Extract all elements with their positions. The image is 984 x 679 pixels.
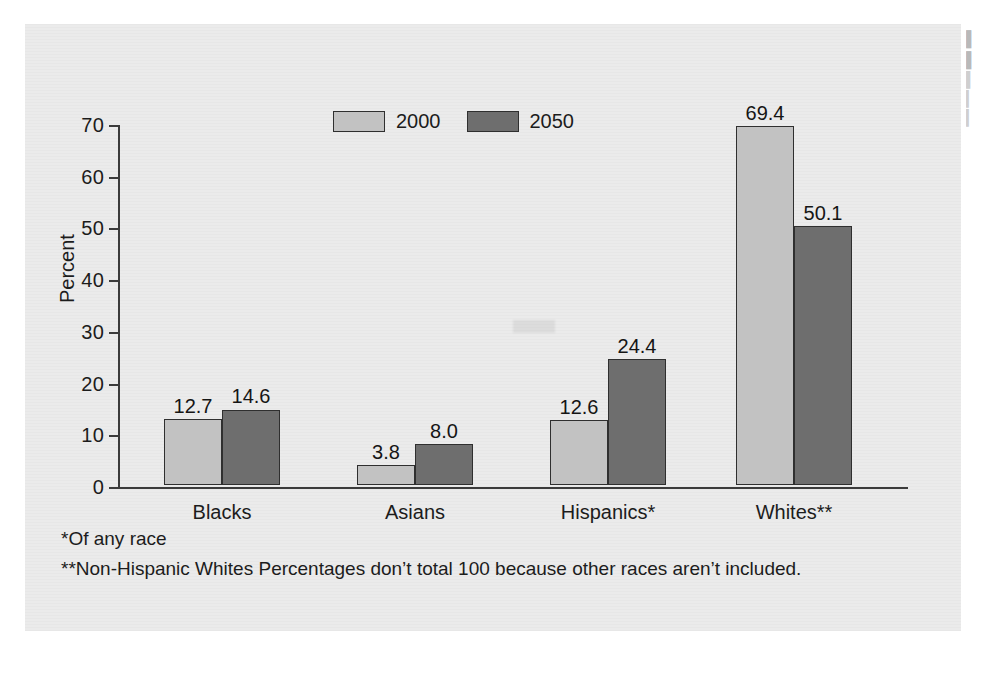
bar-value-label: 3.8 xyxy=(372,441,400,464)
footnotes: *Of any race **Non-Hispanic Whites Perce… xyxy=(61,524,921,584)
y-tick-label: 10 xyxy=(81,424,104,447)
bar-value-label: 8.0 xyxy=(430,420,458,443)
bar-value-label: 69.4 xyxy=(746,102,785,125)
bar-hispanics-2050 xyxy=(608,359,666,485)
margin-text-line: ▎ xyxy=(966,108,984,127)
footnote-2: **Non-Hispanic Whites Percentages don’t … xyxy=(61,554,921,584)
margin-text-line: ▌ xyxy=(966,28,984,49)
y-tick-mark xyxy=(109,487,118,489)
page-margin-cutoff-text: ▌▌▍▎▎ xyxy=(966,28,984,158)
margin-text-line: ▌ xyxy=(966,49,984,70)
y-tick-mark xyxy=(109,384,118,386)
footnote-1: *Of any race xyxy=(61,524,921,554)
bar-blacks-2000 xyxy=(164,419,222,485)
bar-hispanics-2000 xyxy=(550,420,608,485)
category-label-whites: Whites** xyxy=(756,501,833,524)
bar-value-label: 50.1 xyxy=(804,202,843,225)
margin-text-line: ▍ xyxy=(966,70,984,89)
bar-asians-2050 xyxy=(415,444,473,485)
y-tick-label: 30 xyxy=(81,320,104,343)
margin-text-line: ▎ xyxy=(966,89,984,108)
scan-artifact xyxy=(513,320,555,333)
bar-whites-2000 xyxy=(736,126,794,485)
y-tick-mark xyxy=(109,125,118,127)
y-tick-mark xyxy=(109,435,118,437)
y-tick-mark xyxy=(109,280,118,282)
bar-value-label: 12.7 xyxy=(174,395,213,418)
y-tick-label: 70 xyxy=(81,114,104,137)
y-tick-label: 20 xyxy=(81,372,104,395)
x-axis-line xyxy=(118,487,908,489)
chart-panel: 2000 2050 Percent 010203040506070 12.714… xyxy=(25,24,961,631)
category-label-hispanics: Hispanics* xyxy=(561,501,655,524)
y-axis-title: Percent xyxy=(56,234,79,303)
bar-blacks-2050 xyxy=(222,410,280,486)
bar-value-label: 12.6 xyxy=(560,396,599,419)
y-tick-label: 50 xyxy=(81,217,104,240)
bar-value-label: 14.6 xyxy=(232,385,271,408)
y-axis-line xyxy=(118,125,120,488)
bar-value-label: 24.4 xyxy=(618,335,657,358)
y-tick-label: 0 xyxy=(93,476,104,499)
bar-asians-2000 xyxy=(357,465,415,485)
y-tick-mark xyxy=(109,332,118,334)
y-tick-label: 60 xyxy=(81,165,104,188)
y-tick-mark xyxy=(109,177,118,179)
category-label-asians: Asians xyxy=(385,501,445,524)
bar-whites-2050 xyxy=(794,226,852,485)
y-tick-mark xyxy=(109,228,118,230)
category-label-blacks: Blacks xyxy=(193,501,252,524)
plot-area: Percent 010203040506070 12.714.63.88.012… xyxy=(118,125,908,487)
y-tick-label: 40 xyxy=(81,269,104,292)
